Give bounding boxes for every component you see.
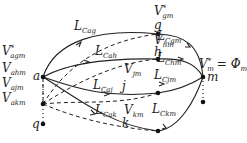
svg-text:LCag: LCag [73,19,96,35]
node-m [201,75,206,80]
node-q [41,122,46,127]
svg-text:LCaj: LCaj [92,78,113,94]
svg-text:LCgm: LCgm [156,29,182,45]
svg-text:Vakm: Vakm [2,91,26,107]
svg-text:LCah: LCah [94,44,117,60]
node-below-m [201,100,206,105]
svg-text:LCjm: LCjm [153,68,176,84]
node-lower [41,102,46,107]
svg-text:V*agm: V*agm [2,44,26,60]
svg-text:Vahm: Vahm [2,61,26,77]
svg-text:Vajm: Vajm [2,76,24,92]
m-labels: V*m= Φm m [199,57,247,84]
node-a [41,75,46,80]
node-k [156,129,161,134]
svg-text:m: m [207,70,218,84]
svg-text:Vjm: Vjm [124,62,142,78]
label-a: a [33,69,40,83]
svg-text:k: k [122,116,129,130]
edge-k-m [158,77,203,131]
svg-text:j: j [119,79,126,93]
label-q: q [32,117,40,131]
a-voltage-labels: V*agm Vahm Vajm Vakm [2,44,26,107]
diagram-canvas: V*agm Vahm Vajm Vakm a q V*gm g Vhm h Vj… [0,0,247,143]
svg-text:LCak: LCak [94,103,117,119]
svg-text:LCkm: LCkm [151,102,177,118]
svg-text:LChm: LChm [156,51,182,67]
node-j [156,91,161,96]
